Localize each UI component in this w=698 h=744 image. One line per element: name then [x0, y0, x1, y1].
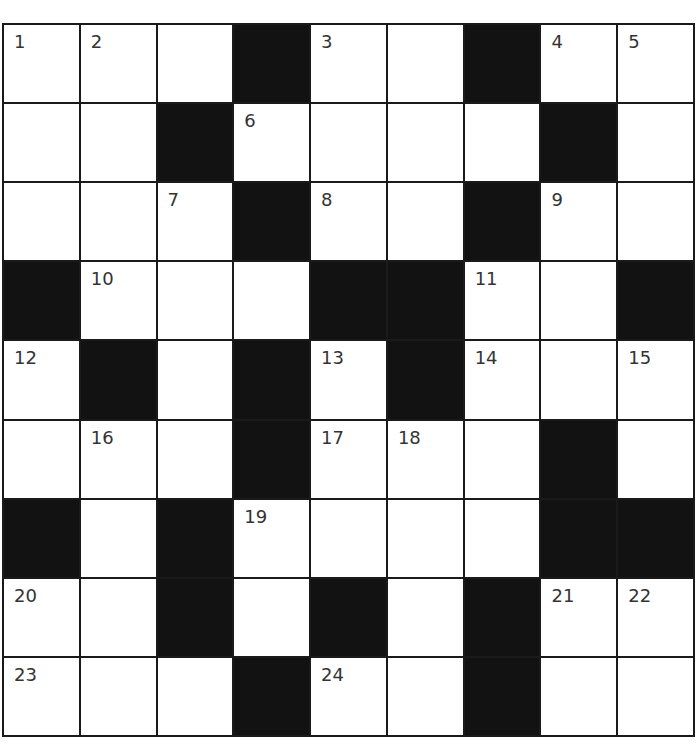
answer-cell[interactable]: [158, 341, 233, 418]
block-cell: [4, 262, 79, 339]
answer-cell[interactable]: 24: [311, 658, 386, 735]
block-cell: [81, 341, 156, 418]
clue-number: 12: [14, 349, 37, 367]
answer-cell[interactable]: 4: [541, 25, 616, 102]
clue-number: 8: [321, 191, 332, 209]
answer-cell[interactable]: 9: [541, 183, 616, 260]
answer-cell[interactable]: [311, 500, 386, 577]
block-cell: [234, 341, 309, 418]
answer-cell[interactable]: [618, 658, 693, 735]
answer-cell[interactable]: 23: [4, 658, 79, 735]
answer-cell[interactable]: 1: [4, 25, 79, 102]
answer-cell[interactable]: [388, 658, 463, 735]
answer-cell[interactable]: 10: [81, 262, 156, 339]
answer-cell[interactable]: 14: [465, 341, 540, 418]
answer-cell[interactable]: 12: [4, 341, 79, 418]
clue-number: 9: [551, 191, 562, 209]
block-cell: [388, 341, 463, 418]
block-cell: [311, 579, 386, 656]
clue-number: 11: [475, 270, 498, 288]
block-cell: [158, 500, 233, 577]
clue-number: 7: [168, 191, 179, 209]
answer-cell[interactable]: [465, 104, 540, 181]
answer-cell[interactable]: [541, 658, 616, 735]
answer-cell[interactable]: [81, 183, 156, 260]
block-cell: [234, 421, 309, 498]
clue-number: 13: [321, 349, 344, 367]
answer-cell[interactable]: 8: [311, 183, 386, 260]
answer-cell[interactable]: [158, 421, 233, 498]
answer-cell[interactable]: [81, 579, 156, 656]
clue-number: 5: [628, 33, 639, 51]
answer-cell[interactable]: 20: [4, 579, 79, 656]
answer-cell[interactable]: 6: [234, 104, 309, 181]
answer-cell[interactable]: [541, 262, 616, 339]
answer-cell[interactable]: [4, 183, 79, 260]
answer-cell[interactable]: [618, 104, 693, 181]
clue-number: 24: [321, 666, 344, 684]
clue-number: 2: [91, 33, 102, 51]
answer-cell[interactable]: 13: [311, 341, 386, 418]
answer-cell[interactable]: [388, 104, 463, 181]
block-cell: [388, 262, 463, 339]
answer-cell[interactable]: 16: [81, 421, 156, 498]
answer-cell[interactable]: [465, 500, 540, 577]
answer-cell[interactable]: [618, 183, 693, 260]
block-cell: [158, 579, 233, 656]
answer-cell[interactable]: [388, 183, 463, 260]
clue-number: 15: [628, 349, 651, 367]
answer-cell[interactable]: [81, 104, 156, 181]
answer-cell[interactable]: 7: [158, 183, 233, 260]
clue-number: 17: [321, 429, 344, 447]
clue-number: 22: [628, 587, 651, 605]
answer-cell[interactable]: [388, 500, 463, 577]
answer-cell[interactable]: [81, 500, 156, 577]
answer-cell[interactable]: [618, 421, 693, 498]
crossword-grid: 123456789101112131415161718192021222324: [2, 23, 695, 737]
clue-number: 21: [551, 587, 574, 605]
answer-cell[interactable]: 22: [618, 579, 693, 656]
answer-cell[interactable]: [465, 421, 540, 498]
clue-number: 6: [244, 112, 255, 130]
answer-cell[interactable]: 5: [618, 25, 693, 102]
answer-cell[interactable]: [311, 104, 386, 181]
clue-number: 3: [321, 33, 332, 51]
block-cell: [465, 183, 540, 260]
answer-cell[interactable]: [388, 25, 463, 102]
clue-number: 10: [91, 270, 114, 288]
clue-number: 1: [14, 33, 25, 51]
answer-cell[interactable]: 17: [311, 421, 386, 498]
answer-cell[interactable]: [4, 104, 79, 181]
block-cell: [541, 500, 616, 577]
block-cell: [234, 25, 309, 102]
clue-number: 4: [551, 33, 562, 51]
block-cell: [465, 579, 540, 656]
answer-cell[interactable]: 11: [465, 262, 540, 339]
answer-cell[interactable]: [234, 262, 309, 339]
block-cell: [4, 500, 79, 577]
answer-cell[interactable]: [541, 341, 616, 418]
clue-number: 20: [14, 587, 37, 605]
answer-cell[interactable]: 18: [388, 421, 463, 498]
block-cell: [311, 262, 386, 339]
answer-cell[interactable]: 3: [311, 25, 386, 102]
block-cell: [234, 658, 309, 735]
block-cell: [158, 104, 233, 181]
clue-number: 16: [91, 429, 114, 447]
answer-cell[interactable]: 19: [234, 500, 309, 577]
answer-cell[interactable]: [158, 25, 233, 102]
answer-cell[interactable]: [234, 579, 309, 656]
answer-cell[interactable]: 2: [81, 25, 156, 102]
answer-cell[interactable]: [158, 262, 233, 339]
answer-cell[interactable]: [4, 421, 79, 498]
block-cell: [465, 658, 540, 735]
block-cell: [618, 500, 693, 577]
answer-cell[interactable]: [81, 658, 156, 735]
block-cell: [234, 183, 309, 260]
answer-cell[interactable]: 21: [541, 579, 616, 656]
answer-cell[interactable]: 15: [618, 341, 693, 418]
answer-cell[interactable]: [158, 658, 233, 735]
clue-number: 19: [244, 508, 267, 526]
block-cell: [465, 25, 540, 102]
answer-cell[interactable]: [388, 579, 463, 656]
